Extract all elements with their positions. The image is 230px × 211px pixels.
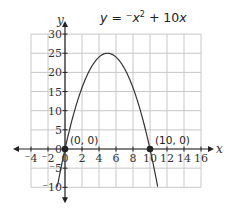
x-tick-label: 16 [194,152,208,165]
x-tick-label: 14 [177,152,191,165]
title-eq: = [107,10,125,25]
parabola-chart: ⁻4⁻20246810121416⁻10⁻5051015202530 (0, 0… [0,0,230,211]
intercept-point [147,146,154,153]
x-tick-label: 2 [79,152,86,165]
x-axis-label: x [216,142,223,156]
x-axis-arrow-left-icon [13,146,19,152]
x-tick-label: 6 [113,152,120,165]
x-axis-arrow-right-icon [208,146,214,152]
title-plus: + 10 [145,10,179,25]
y-tick-label: 0 [55,143,62,156]
x-tick-label: 10 [143,152,157,165]
y-axis-arrow-down-icon [62,197,68,203]
y-axis-label: y [56,13,64,27]
y-tick-label: 30 [48,28,62,41]
y-tick-label: 25 [48,47,62,60]
intercept-point [62,146,69,153]
title-neg: ⁻ [126,10,133,25]
y-tick-label: 20 [48,66,62,79]
point-label: (0, 0) [70,134,98,146]
x-tick-label: ⁻4 [25,152,38,165]
x-tick-label: 12 [160,152,174,165]
y-tick-label: ⁻10 [42,181,62,194]
chart-title: y = ⁻x2 + 10x [99,10,187,25]
y-tick-label: 10 [48,105,62,118]
point-label: (10, 0) [155,134,190,146]
x-tick-label: 8 [130,152,137,165]
parabola-curve [57,53,157,186]
y-tick-label: 15 [48,86,62,99]
x-tick-label: 4 [96,152,103,165]
title-x2: x [178,10,187,25]
y-tick-label: 5 [55,124,62,137]
